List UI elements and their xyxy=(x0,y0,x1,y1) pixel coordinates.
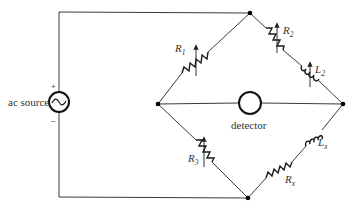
detector-branch: detector xyxy=(158,92,343,131)
ac-source: + − ac source xyxy=(8,82,69,126)
plus-sign: + xyxy=(51,82,56,91)
node-bottom xyxy=(246,196,251,201)
resistor-r2 xyxy=(266,28,284,50)
label-r2: R2 xyxy=(282,24,294,39)
node-left xyxy=(156,102,161,107)
resistor-r3 xyxy=(196,140,214,162)
label-r1: R1 xyxy=(174,42,185,57)
detector-label: detector xyxy=(231,119,267,131)
detector-circle xyxy=(239,92,261,114)
label-l2: L2 xyxy=(314,63,325,78)
ac-source-label: ac source xyxy=(8,96,49,108)
label-lx: Lx xyxy=(317,136,328,151)
resistor-r1 xyxy=(182,52,208,73)
node-top xyxy=(248,11,253,16)
arm-top-left: R1 xyxy=(158,13,250,104)
minus-sign: − xyxy=(51,117,56,126)
arm-top-right: R2 L2 xyxy=(250,13,343,104)
label-r3: R3 xyxy=(187,152,199,167)
bridge-circuit-diagram: + − ac source detector R1 R2 L2 R3 xyxy=(0,0,352,210)
node-right xyxy=(341,102,346,107)
label-rx: Rx xyxy=(284,173,296,188)
